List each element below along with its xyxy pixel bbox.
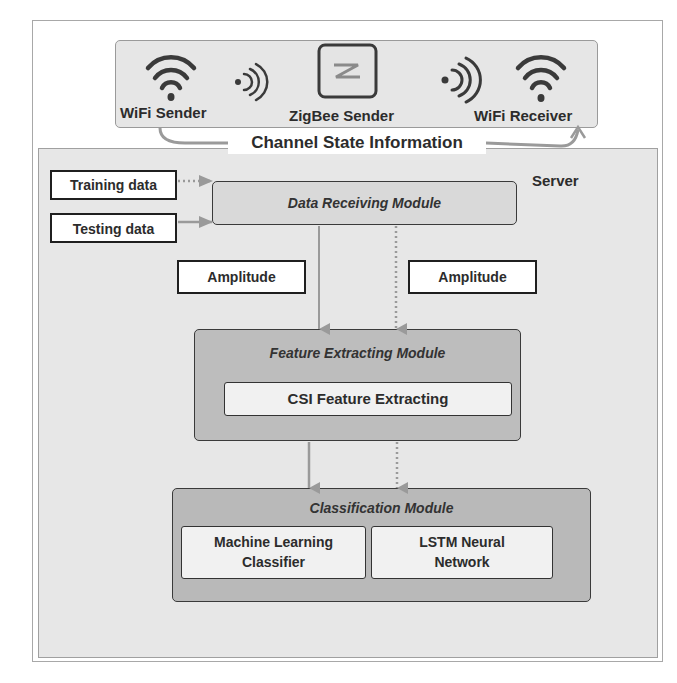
flow-arrows — [0, 0, 677, 683]
